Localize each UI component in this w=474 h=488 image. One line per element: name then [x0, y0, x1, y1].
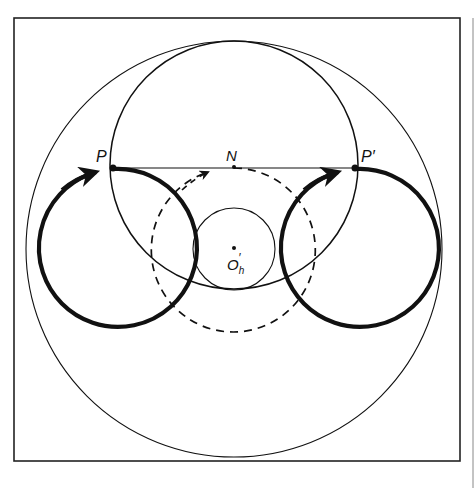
left-heavy-circle: [39, 169, 197, 327]
label-p: P: [96, 148, 107, 165]
left-heavy-arrow: [62, 172, 96, 190]
diagram-canvas: P P′ N Oh′: [0, 0, 474, 488]
point-o-h-prime: [232, 246, 236, 250]
point-p-prime: [352, 165, 359, 172]
right-heavy-circle: [281, 169, 439, 327]
dashed-arrow: [182, 172, 208, 190]
point-p: [110, 165, 117, 172]
label-o-h-prime: Oh′: [227, 251, 245, 276]
label-p-prime: P′: [361, 148, 376, 165]
figure-frame: [14, 18, 460, 461]
point-n: [232, 165, 236, 169]
label-n: N: [226, 147, 237, 164]
right-heavy-arrow: [304, 172, 338, 190]
